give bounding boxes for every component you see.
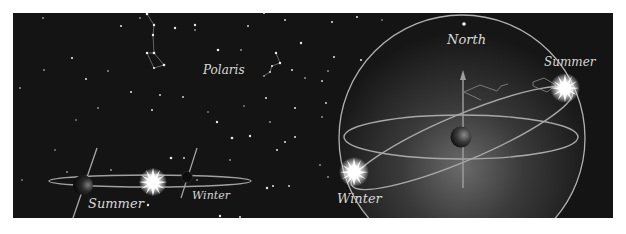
summer-label-left: Summer: [88, 196, 145, 211]
north-pole-star: [462, 22, 466, 26]
sun-summer-right: [550, 73, 580, 103]
winter-earth: [182, 172, 193, 183]
winter-label-left: Winter: [192, 189, 231, 202]
winter-label-right: Winter: [337, 191, 383, 206]
sun-left: [139, 168, 167, 196]
astronomy-diagram: Polaris Summer Winter: [0, 0, 626, 234]
central-earth: [451, 127, 472, 148]
sun-winter-right: [339, 157, 369, 187]
north-label: North: [446, 32, 486, 47]
summer-label-right: Summer: [544, 55, 597, 69]
summer-earth: [73, 175, 93, 195]
polaris-label: Polaris: [202, 63, 245, 77]
